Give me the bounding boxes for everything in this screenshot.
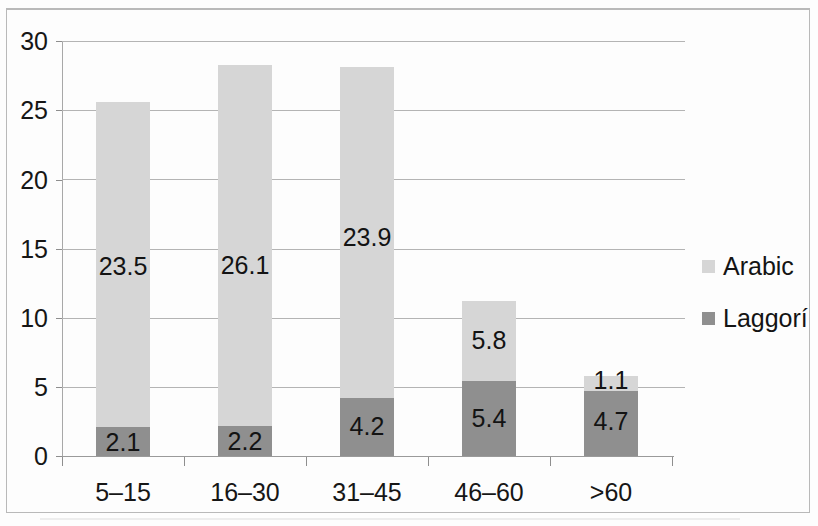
- bar-value-label: 2.1: [96, 430, 150, 455]
- x-axis-tick: [306, 457, 307, 466]
- legend-item-laggori[interactable]: Laggorí: [702, 292, 812, 344]
- x-axis-tick: [550, 457, 551, 466]
- chart-legend: Arabic Laggorí: [702, 240, 812, 344]
- y-axis-labels: 30 25 20 15 10 5 0: [0, 0, 48, 526]
- bar-value-label: 23.9: [340, 225, 394, 250]
- scan-artifact: [40, 518, 740, 520]
- bar-segment-arabic[interactable]: 23.5: [96, 102, 150, 427]
- y-axis-label: 5: [8, 375, 48, 400]
- x-axis-label-31-45: 31–45: [306, 478, 428, 507]
- y-axis-label: 10: [8, 306, 48, 331]
- bar-value-label: 5.4: [462, 406, 516, 431]
- bar-value-label: 1.1: [584, 368, 638, 393]
- y-axis-label: 30: [8, 29, 48, 54]
- legend-label: Arabic: [723, 252, 794, 281]
- bar-value-label: 4.2: [340, 414, 394, 439]
- x-axis-label-5-15: 5–15: [62, 478, 184, 507]
- bar-segment-laggori[interactable]: 4.7: [584, 391, 638, 456]
- bar-value-label: 5.8: [462, 328, 516, 353]
- y-axis-label: 0: [8, 444, 48, 469]
- bar-value-label: 23.5: [96, 254, 150, 279]
- x-axis-label-46-60: 46–60: [428, 478, 550, 507]
- bar-group-16-30[interactable]: 26.1 2.2: [218, 65, 272, 456]
- x-axis-tick: [62, 457, 63, 466]
- x-axis-tick: [672, 457, 673, 466]
- chart-figure: 30 25 20 15 10 5 0 23.5 2.1: [0, 0, 818, 526]
- bar-segment-laggori[interactable]: 4.2: [340, 398, 394, 456]
- plot-area: 23.5 2.1 26.1 2.2 23.9 4.2: [62, 41, 673, 456]
- bar-segment-laggori[interactable]: 2.1: [96, 427, 150, 456]
- bar-group-46-60[interactable]: 5.8 5.4: [462, 301, 516, 456]
- bar-segment-arabic[interactable]: 1.1: [584, 376, 638, 391]
- legend-label: Laggorí: [723, 304, 808, 333]
- bar-group-5-15[interactable]: 23.5 2.1: [96, 102, 150, 456]
- x-axis-tick: [428, 457, 429, 466]
- bar-segment-arabic[interactable]: 5.8: [462, 301, 516, 381]
- bar-segment-arabic[interactable]: 26.1: [218, 65, 272, 426]
- y-axis-label: 25: [8, 98, 48, 123]
- x-axis-line: [62, 456, 674, 457]
- bar-value-label: 2.2: [218, 429, 272, 454]
- bar-group-over-60[interactable]: 1.1 4.7: [584, 376, 638, 456]
- y-axis-label: 20: [8, 168, 48, 193]
- x-axis-tick: [184, 457, 185, 466]
- legend-swatch-icon: [702, 312, 715, 325]
- bar-segment-arabic[interactable]: 23.9: [340, 67, 394, 398]
- bar-value-label: 26.1: [218, 253, 272, 278]
- legend-swatch-icon: [702, 260, 715, 273]
- y-axis-label: 15: [8, 237, 48, 262]
- bar-segment-laggori[interactable]: 5.4: [462, 381, 516, 456]
- bar-group-31-45[interactable]: 23.9 4.2: [340, 67, 394, 456]
- legend-item-arabic[interactable]: Arabic: [702, 240, 812, 292]
- x-axis-label-over-60: >60: [550, 478, 672, 507]
- bar-value-label: 4.7: [584, 409, 638, 434]
- bar-segment-laggori[interactable]: 2.2: [218, 426, 272, 456]
- x-axis-label-16-30: 16–30: [184, 478, 306, 507]
- gridline-30: [62, 41, 685, 42]
